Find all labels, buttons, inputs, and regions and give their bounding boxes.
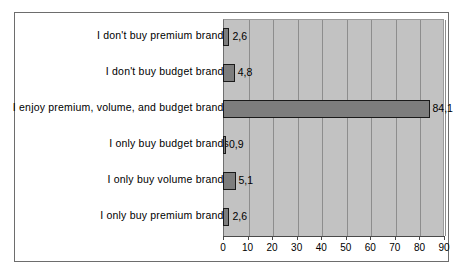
bar-value-label: 2,6 (232, 30, 247, 42)
bar-row: I only buy premium brands2,6 (15, 199, 444, 235)
bar (223, 136, 226, 154)
category-label: I don't buy premium brands (97, 29, 229, 41)
x-tick-label: 10 (235, 242, 261, 253)
bar-container (223, 28, 229, 46)
category-label: I enjoy premium, volume, and budget bran… (13, 101, 229, 113)
category-label: I only buy budget brands (109, 137, 229, 149)
x-tick (272, 236, 273, 240)
bar-value-label: 84,1 (433, 102, 453, 114)
category-label: I don't buy budget brands (106, 65, 229, 77)
bar-container (223, 100, 430, 118)
x-tick-label: 30 (284, 242, 310, 253)
bar-value-label: 0,9 (229, 138, 244, 150)
bar (223, 28, 229, 46)
bar-value-label: 5,1 (239, 174, 254, 186)
x-tick (419, 236, 420, 240)
x-tick-label: 90 (431, 242, 457, 253)
x-tick (248, 236, 249, 240)
chart-figure: 0102030405060708090 I don't buy premium … (14, 12, 449, 262)
x-tick (370, 236, 371, 240)
x-axis-line (223, 236, 444, 237)
bar (223, 172, 236, 190)
bar-row: I don't buy premium brands2,6 (15, 19, 444, 55)
bar (223, 208, 229, 226)
x-tick (395, 236, 396, 240)
bar-value-label: 4,8 (238, 66, 253, 78)
bar-row: I enjoy premium, volume, and budget bran… (15, 91, 444, 127)
x-tick-label: 50 (333, 242, 359, 253)
x-tick (321, 236, 322, 240)
x-tick-label: 40 (308, 242, 334, 253)
bar-container (223, 208, 229, 226)
bar-row: I don't buy budget brands4,8 (15, 55, 444, 91)
bar-row: I only buy budget brands0,9 (15, 127, 444, 163)
x-tick-label: 80 (406, 242, 432, 253)
x-tick-label: 60 (357, 242, 383, 253)
x-tick-label: 20 (259, 242, 285, 253)
bar-container (223, 136, 226, 154)
bar-row: I only buy volume brands5,1 (15, 163, 444, 199)
x-tick-label: 0 (210, 242, 236, 253)
category-label: I only buy premium brands (100, 209, 229, 221)
x-tick (297, 236, 298, 240)
gridline (445, 20, 446, 236)
x-tick (346, 236, 347, 240)
x-tick (444, 236, 445, 240)
bar (223, 100, 430, 118)
bar-container (223, 172, 236, 190)
bar-container (223, 64, 235, 82)
x-tick (223, 236, 224, 240)
bar (223, 64, 235, 82)
category-label: I only buy volume brands (107, 173, 229, 185)
bar-value-label: 2,6 (232, 210, 247, 222)
x-tick-label: 70 (382, 242, 408, 253)
